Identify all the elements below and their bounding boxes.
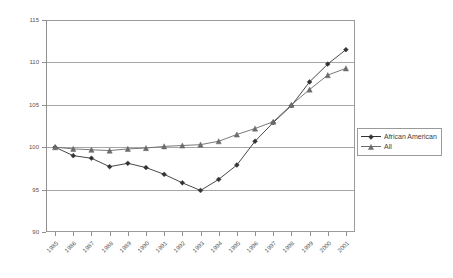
x-tick-label: 2000 (315, 240, 333, 258)
x-tick-label: 1995 (224, 240, 242, 258)
y-tick-label: 110 (29, 59, 39, 65)
legend-item-label: All (381, 143, 392, 151)
x-tick-mark (310, 232, 311, 236)
x-tick-mark (219, 232, 220, 236)
x-tick-label: 1988 (97, 240, 115, 258)
x-tick-mark (164, 232, 165, 236)
x-tick-mark (182, 232, 183, 236)
x-tick-mark (146, 232, 147, 236)
x-tick-label: 1990 (133, 240, 151, 258)
y-tick-mark (42, 62, 46, 63)
y-tick-mark (42, 232, 46, 233)
x-tick-mark (291, 232, 292, 236)
gridline (47, 147, 354, 148)
y-axis: 1151101051009590 (0, 0, 46, 252)
x-tick-label: 1989 (115, 240, 133, 258)
x-tick-label: 1987 (79, 240, 97, 258)
x-tick-mark (201, 232, 202, 236)
x-tick-mark (237, 232, 238, 236)
x-tick-label: 1996 (242, 240, 260, 258)
x-tick-mark (91, 232, 92, 236)
x-tick-label: 1994 (206, 240, 224, 258)
x-tick-mark (255, 232, 256, 236)
legend-item-label: African American (381, 133, 437, 141)
y-tick-mark (42, 147, 46, 148)
x-tick-mark (110, 232, 111, 236)
y-tick-label: 105 (29, 102, 39, 108)
x-tick-mark (73, 232, 74, 236)
x-tick-label: 1993 (188, 240, 206, 258)
x-tick-label: 1997 (260, 240, 278, 258)
legend-marker-icon (361, 132, 381, 142)
x-tick-label: 1986 (61, 240, 79, 258)
legend-item[interactable]: All (361, 142, 437, 152)
x-tick-mark (346, 232, 347, 236)
y-tick-label: 100 (29, 144, 39, 150)
x-tick-label: 1999 (297, 240, 315, 258)
x-tick-label: 1998 (279, 240, 297, 258)
legend-item[interactable]: African American (361, 132, 437, 142)
gridline (47, 105, 354, 106)
x-tick-mark (128, 232, 129, 236)
y-tick-label: 115 (29, 17, 39, 23)
x-tick-mark (55, 232, 56, 236)
y-tick-mark (42, 105, 46, 106)
y-tick-mark (42, 190, 46, 191)
x-tick-label: 1992 (170, 240, 188, 258)
y-tick-mark (42, 20, 46, 21)
legend-marker-icon (361, 142, 381, 152)
x-tick-label: 1991 (151, 240, 169, 258)
plot-area (46, 20, 355, 232)
line-chart: 1151101051009590 19851986198719881989199… (0, 0, 453, 278)
x-tick-label: 2001 (333, 240, 351, 258)
x-tick-mark (273, 232, 274, 236)
gridline (47, 62, 354, 63)
gridline (47, 190, 354, 191)
y-tick-label: 90 (32, 229, 39, 235)
x-tick-mark (328, 232, 329, 236)
chart-legend: African AmericanAll (357, 128, 442, 156)
y-tick-label: 95 (32, 187, 39, 193)
